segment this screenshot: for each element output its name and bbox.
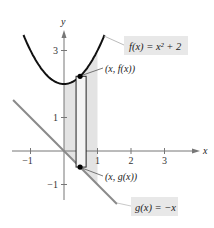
f-function-label: f(x) = x² + 2 xyxy=(129,41,182,53)
y-tick-label: 1 xyxy=(53,112,58,123)
y-axis-label: y xyxy=(60,16,66,27)
x-tick-label: 3 xyxy=(162,155,167,166)
x-axis-arrow-icon xyxy=(192,149,200,154)
point-x-gx xyxy=(77,164,82,169)
x-tick-label: 1 xyxy=(95,155,100,166)
y-axis-arrow-icon xyxy=(62,30,67,38)
x-tick-label: −1 xyxy=(22,155,33,166)
y-tick-label: −1 xyxy=(47,179,58,190)
x-axis-label: x xyxy=(202,145,208,156)
representative-rectangle xyxy=(76,76,86,167)
point-x-fx xyxy=(77,74,82,79)
leader-line-f-label xyxy=(104,36,124,45)
leader-line-g-label xyxy=(117,203,131,206)
label-x-fx: (x, f(x)) xyxy=(105,63,136,75)
g-function-label: g(x) = −x xyxy=(135,202,176,214)
x-tick-label: 2 xyxy=(129,155,134,166)
label-x-gx: (x, g(x)) xyxy=(105,171,138,183)
area-between-curves-diagram: x y −1123 31−1 (x, f(x)) (x, g(x)) f(x) … xyxy=(0,0,214,228)
y-tick-label: 3 xyxy=(53,45,58,56)
